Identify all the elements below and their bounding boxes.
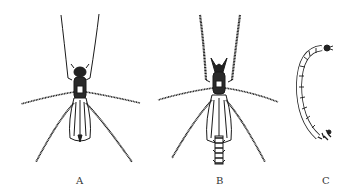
panel-label-a: A: [76, 175, 83, 186]
larva-c-illustration: [299, 45, 333, 140]
insect-b-illustration: [158, 15, 278, 164]
figure-canvas: [0, 0, 359, 194]
insect-a-illustration: [21, 14, 140, 162]
panel-label-b: B: [216, 175, 223, 186]
panel-label-c: C: [322, 175, 330, 186]
